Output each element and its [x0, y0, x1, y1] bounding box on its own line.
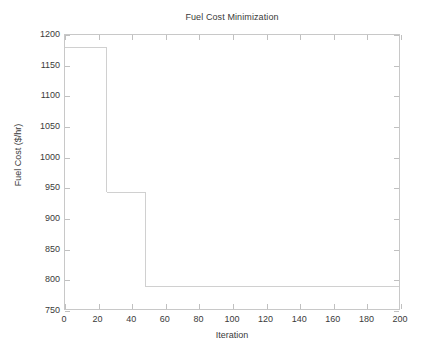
x-tick-mark [99, 35, 100, 40]
x-tick-mark [401, 35, 402, 40]
series-line [65, 48, 399, 287]
y-tick-mark [65, 250, 70, 251]
y-tick-mark [394, 219, 399, 220]
y-tick-mark [394, 311, 399, 312]
x-tick-mark [334, 35, 335, 40]
y-tick-mark [65, 280, 70, 281]
plot-area [64, 34, 400, 310]
x-tick-mark [267, 304, 268, 309]
chart-title: Fuel Cost Minimization [64, 12, 400, 22]
x-tick-mark [65, 35, 66, 40]
x-tick-mark [132, 304, 133, 309]
chart-figure: Fuel Cost Minimization 75080085090095010… [0, 0, 427, 354]
x-tick-mark [199, 304, 200, 309]
x-tick-mark [300, 35, 301, 40]
x-tick-mark [334, 304, 335, 309]
x-tick-mark [99, 304, 100, 309]
y-tick-mark [394, 35, 399, 36]
x-tick-mark [367, 35, 368, 40]
y-tick-mark [394, 188, 399, 189]
y-tick-label: 850 [8, 244, 60, 254]
y-tick-mark [394, 250, 399, 251]
y-tick-mark [394, 66, 399, 67]
y-tick-mark [65, 219, 70, 220]
y-tick-label: 1150 [8, 60, 60, 70]
x-tick-mark [233, 304, 234, 309]
y-tick-mark [65, 127, 70, 128]
y-tick-mark [394, 158, 399, 159]
x-tick-mark [166, 35, 167, 40]
x-tick-mark [199, 35, 200, 40]
x-tick-label: 200 [380, 314, 420, 324]
y-tick-mark [65, 158, 70, 159]
x-tick-mark [267, 35, 268, 40]
data-line-series [65, 35, 399, 309]
y-tick-mark [65, 66, 70, 67]
x-tick-mark [300, 304, 301, 309]
x-axis-title: Iteration [64, 330, 400, 340]
x-axis-tick-labels: 020406080100120140160180200 [64, 314, 400, 328]
y-tick-mark [65, 311, 70, 312]
x-tick-mark [233, 35, 234, 40]
y-axis-title: Fuel Cost ($/hr) [13, 75, 23, 235]
y-tick-mark [394, 280, 399, 281]
x-tick-mark [132, 35, 133, 40]
y-tick-label: 800 [8, 274, 60, 284]
y-tick-mark [65, 96, 70, 97]
y-tick-label: 1200 [8, 29, 60, 39]
y-tick-mark [394, 96, 399, 97]
x-tick-mark [65, 304, 66, 309]
x-tick-mark [166, 304, 167, 309]
plot-inner [65, 35, 399, 309]
y-tick-mark [65, 188, 70, 189]
x-tick-mark [367, 304, 368, 309]
x-tick-mark [401, 304, 402, 309]
y-tick-mark [394, 127, 399, 128]
